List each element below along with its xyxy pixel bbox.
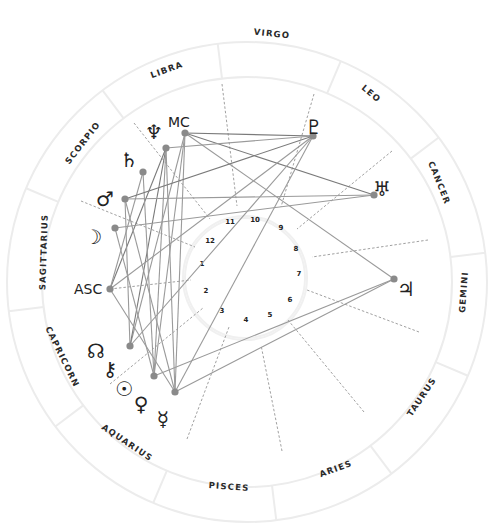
house-cusp [261,345,282,451]
astrology-chart-wheel: VIRGOLEOCANCERGEMINITAURUSARIESPISCESAQU… [0,0,495,531]
sign-label-cancer: CANCER [426,160,452,206]
mc-label: MC [168,114,190,130]
house-cusp [222,84,237,206]
sign-divider [218,44,222,79]
aspect-line [125,136,313,199]
mars-point [121,195,128,202]
sign-divider [436,362,468,376]
house-cusp [288,320,364,412]
sun-point [150,372,157,379]
sign-divider [55,405,83,426]
aspect-line [115,195,374,228]
saturn-icon: ♄ [120,148,138,172]
jupiter-icon: ♃ [397,277,415,301]
house-cusp [312,240,428,257]
neptune-point [162,144,169,151]
sign-label-aquarius: AQUARIUS [100,422,155,463]
sign-label-gemini: GEMINI [457,271,470,313]
uranus-icon: ♅ [373,177,391,201]
aspect-line [154,279,394,376]
sign-label-sagittarius: SAGITTARIUS [37,214,50,291]
sign-divider [103,90,124,118]
aspect-lines [110,133,394,392]
house-number-4: 4 [244,316,249,324]
sun-icon: ☉ [115,377,133,401]
mars-icon: ♂ [96,187,114,211]
sign-divider [327,61,341,93]
house-number-10: 10 [250,216,260,224]
aspect-line [185,133,374,195]
house-number-12: 12 [205,237,215,245]
venus-icon: ♀ [134,392,149,416]
pluto-icon: ♇ [305,115,323,139]
house-number-5: 5 [268,311,273,319]
aspect-line [166,136,313,148]
aspect-line [185,133,313,136]
saturn-point [139,168,146,175]
planet-points: MC♆♄♂☽ASC☊⚷☉♀☿♇♅♃ [74,114,415,431]
sign-divider [450,253,485,257]
mercury-icon: ☿ [157,407,169,431]
house-cusp [281,94,314,207]
sign-divider [411,138,439,159]
zodiac-sign-labels: VIRGOLEOCANCERGEMINITAURUSARIESPISCESAQU… [37,27,470,493]
neptune-icon: ♆ [145,120,163,144]
sign-divider [9,307,44,311]
moon-icon: ☽ [84,225,102,249]
sign-label-pisces: PISCES [208,480,249,493]
aspect-line [125,195,374,199]
sign-divider [272,485,276,520]
north-node-point [126,342,133,349]
house-number-6: 6 [288,296,293,304]
moon-point [111,224,118,231]
mc-point [181,129,188,136]
house-number-2: 2 [204,287,209,295]
asc-point [106,285,113,292]
sign-divider [153,471,167,503]
house-number-11: 11 [225,218,235,226]
sign-label-aries: ARIES [318,458,354,479]
asc-label: ASC [74,281,102,297]
sign-label-capricorn: CAPRICORN [43,325,81,389]
aspect-line [175,279,394,392]
house-number-7: 7 [297,270,302,278]
sign-label-libra: LIBRA [149,59,185,80]
sign-divider [26,188,58,202]
house-number-8: 8 [294,245,299,253]
venus-point [171,388,178,395]
sign-label-taurus: TAURUS [405,375,439,418]
sign-divider [370,446,391,474]
sign-label-leo: LEO [360,83,383,105]
aspect-line [115,228,154,376]
sign-label-virgo: VIRGO [253,27,290,41]
house-number-9: 9 [279,224,284,232]
